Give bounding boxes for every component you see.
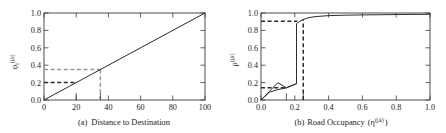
y-axis-superscript-a: (j,k) bbox=[9, 54, 16, 63]
y-tick-label: 0.8 bbox=[248, 26, 258, 35]
chart-panel-b: 0.0 0.2 0.4 0.6 0.8 1.0 bbox=[223, 0, 446, 133]
caption-text-a: Distance to Destination bbox=[91, 118, 170, 127]
svg-text:(a)Distance to Destination: (a)Distance to Destination bbox=[78, 118, 171, 127]
plot-frame-b bbox=[261, 13, 430, 100]
caption-label-a: (a) bbox=[78, 118, 88, 127]
y-tick-label: 0.4 bbox=[31, 61, 41, 70]
figure-row: 0.0 0.2 0.4 0.6 0.8 1.0 bbox=[0, 0, 446, 133]
y-axis-subscript-a: i bbox=[14, 63, 20, 65]
x-tick-label: 100 bbox=[199, 103, 211, 112]
x-tick-label: 0.2 bbox=[290, 103, 300, 112]
series-line-b-lower bbox=[261, 84, 296, 100]
y-tick-label: 0.4 bbox=[248, 61, 258, 70]
chart-a-svg: 0.0 0.2 0.4 0.6 0.8 1.0 bbox=[0, 0, 223, 133]
chart-panel-a: 0.0 0.2 0.4 0.6 0.8 1.0 bbox=[0, 0, 223, 133]
x-tick-label: 0.4 bbox=[323, 103, 333, 112]
svg-text:φi(j,k): φi(j,k) bbox=[9, 54, 20, 69]
y-axis-title-b: ρ(j,k) bbox=[229, 53, 239, 66]
x-tick-label: 80 bbox=[169, 103, 177, 112]
y-tick-label: 0.6 bbox=[248, 44, 258, 53]
y-tick-label: 0.2 bbox=[248, 79, 258, 88]
chart-b-svg: 0.0 0.2 0.4 0.6 0.8 1.0 bbox=[223, 0, 446, 133]
x-axis-tick-labels-b: 0.0 0.2 0.4 0.6 0.8 1.0 bbox=[256, 103, 435, 112]
y-axis-title-a: φi(j,k) bbox=[9, 54, 20, 69]
x-tick-label: 1.0 bbox=[425, 103, 435, 112]
y-axis-tick-labels-a: 0.0 0.2 0.4 0.6 0.8 1.0 bbox=[31, 9, 41, 105]
caption-b: (b)Road Occupancy(η(j,k)) bbox=[295, 117, 388, 127]
svg-text:ρ(j,k): ρ(j,k) bbox=[229, 53, 239, 66]
caption-label-b: (b) bbox=[295, 118, 305, 127]
caption-symbol-close-b: ) bbox=[385, 118, 388, 127]
x-tick-label: 40 bbox=[104, 103, 112, 112]
y-axis-ticks-b bbox=[261, 13, 430, 100]
y-tick-label: 0.8 bbox=[31, 26, 41, 35]
y-tick-label: 0.6 bbox=[31, 44, 41, 53]
x-tick-label: 0.6 bbox=[357, 103, 367, 112]
y-tick-label: 1.0 bbox=[31, 9, 41, 18]
y-axis-tick-labels-b: 0.0 0.2 0.4 0.6 0.8 1.0 bbox=[248, 9, 258, 105]
x-tick-label: 0.0 bbox=[256, 103, 266, 112]
y-tick-label: 0.0 bbox=[31, 96, 41, 105]
x-tick-label: 60 bbox=[137, 103, 145, 112]
y-tick-label: 1.0 bbox=[248, 9, 258, 18]
x-axis-tick-labels-a: 0 20 40 60 80 100 bbox=[42, 103, 211, 112]
caption-symbol-sup-b: (j,k) bbox=[375, 117, 384, 124]
caption-symbol-open-b: (η bbox=[368, 118, 375, 127]
y-tick-label: 0.2 bbox=[31, 79, 41, 88]
x-axis-ticks-b bbox=[261, 13, 430, 100]
series-line-a bbox=[44, 13, 205, 100]
series-line-b bbox=[261, 14, 430, 100]
svg-text:(b)Road Occupancy(η(j,k)): (b)Road Occupancy(η(j,k)) bbox=[295, 117, 388, 127]
x-tick-label: 20 bbox=[72, 103, 80, 112]
x-tick-label: 0.8 bbox=[391, 103, 401, 112]
y-axis-superscript-b: (j,k) bbox=[229, 53, 236, 62]
caption-a: (a)Distance to Destination bbox=[78, 118, 171, 127]
x-tick-label: 0 bbox=[42, 103, 46, 112]
caption-text-b: Road Occupancy bbox=[307, 118, 365, 127]
